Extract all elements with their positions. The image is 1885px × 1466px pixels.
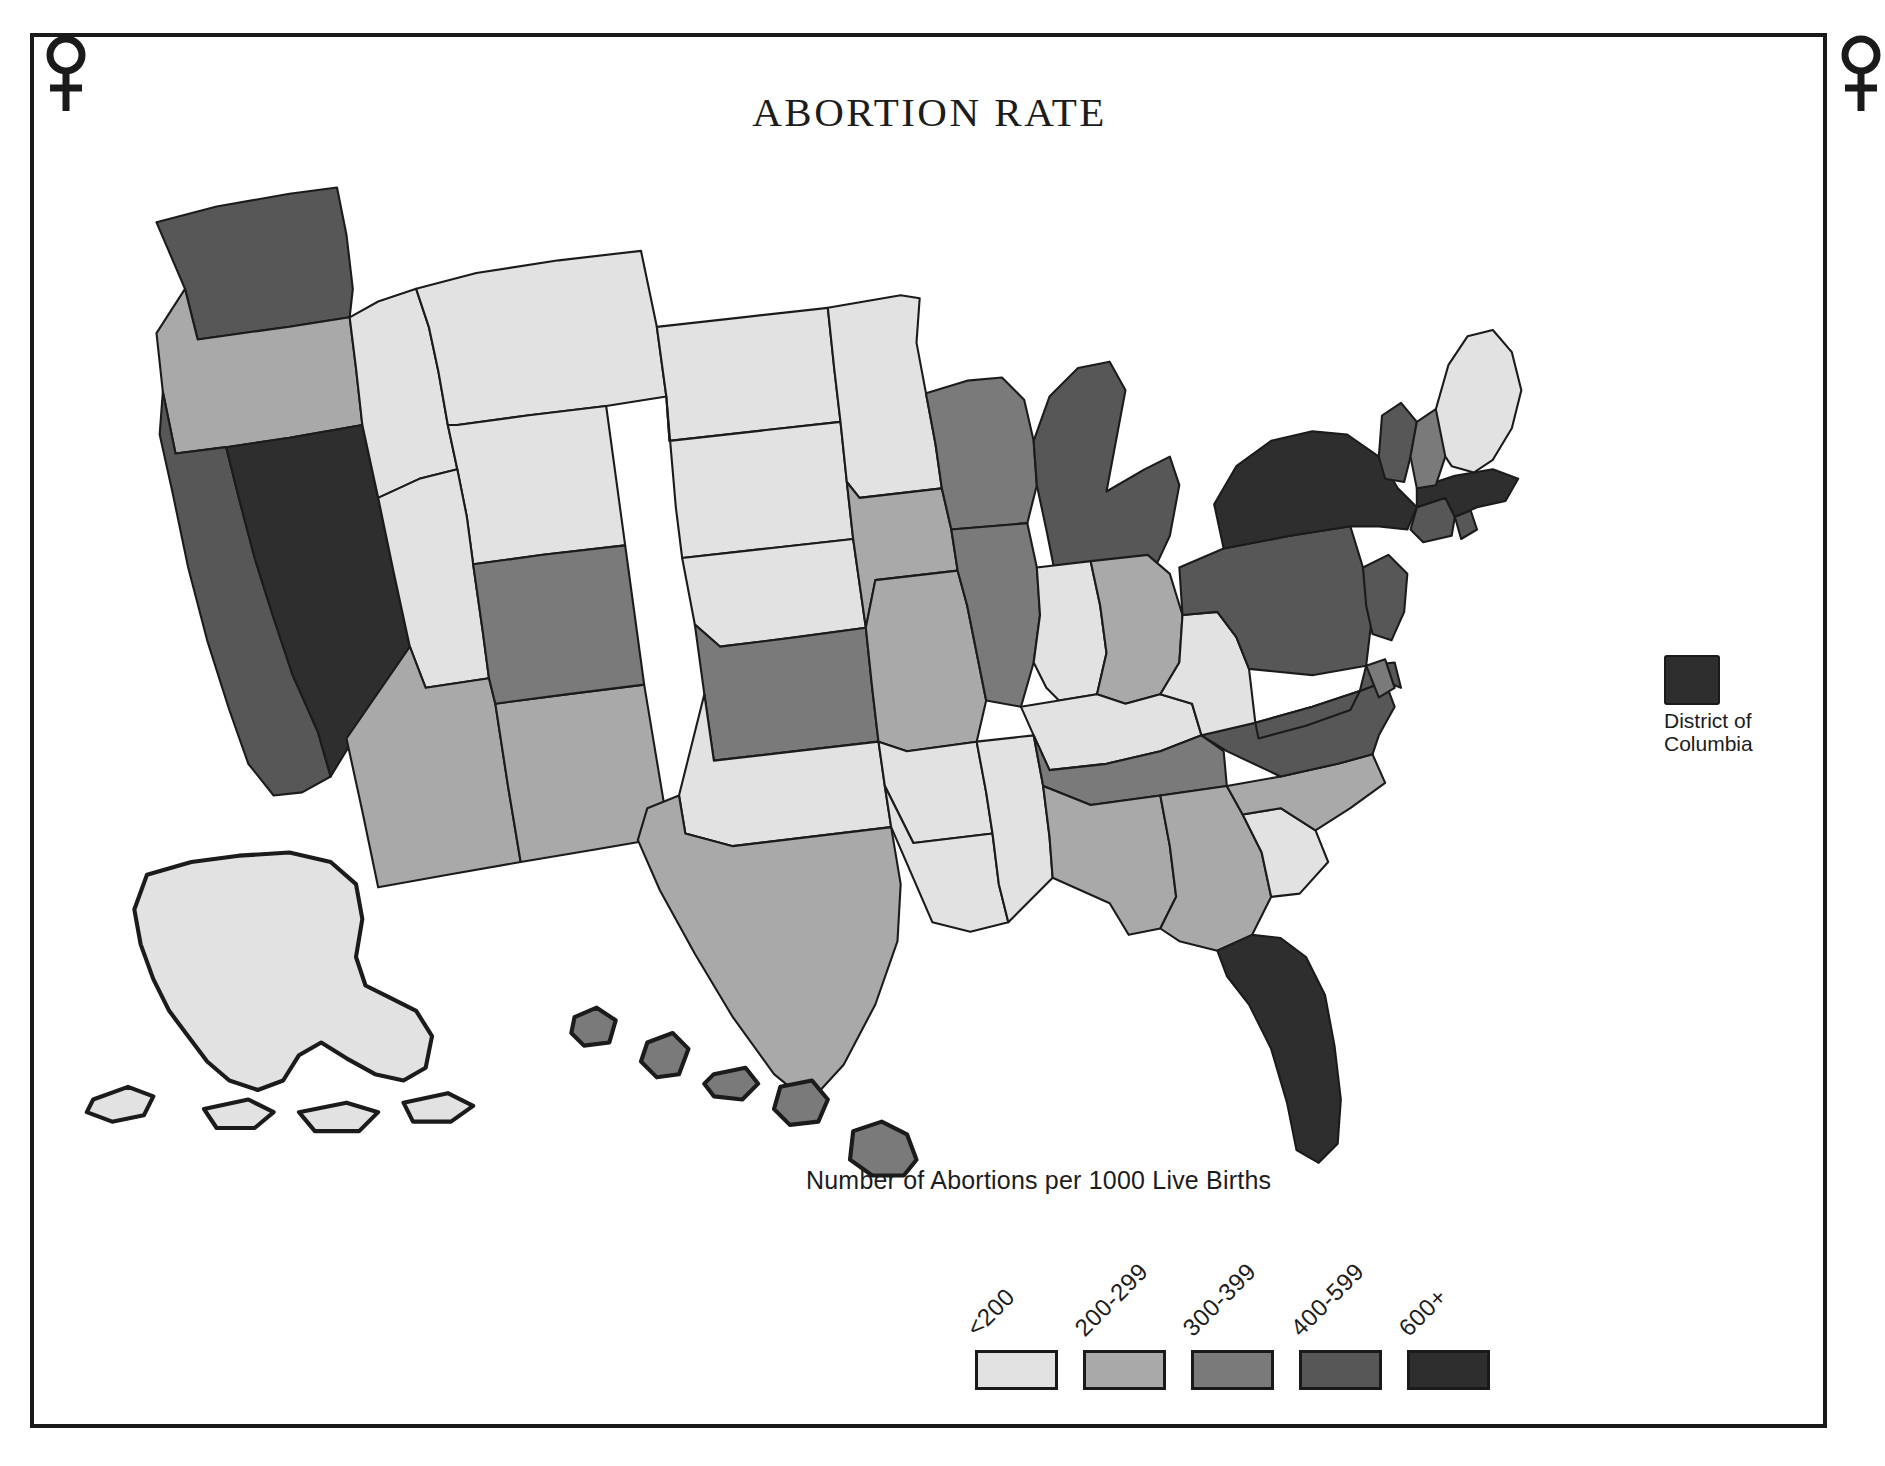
legend-item: <200 — [975, 1350, 1058, 1390]
dc-label-line2: Columbia — [1664, 733, 1834, 756]
legend-swatch — [1191, 1350, 1274, 1390]
state-mn: Minnesota — [828, 295, 942, 498]
state-vt: Vermont — [1379, 403, 1417, 482]
map-subtitle: Number of Abortions per 1000 Live Births — [806, 1166, 1271, 1195]
legend-item: 400-599 — [1299, 1350, 1382, 1390]
legend-swatch — [975, 1350, 1058, 1390]
legend-item: 300-399 — [1191, 1350, 1274, 1390]
state-ak: Alaska — [87, 853, 473, 1132]
state-fl: Florida — [1217, 935, 1341, 1163]
dc-color-swatch — [1664, 655, 1720, 705]
state-me: Maine — [1436, 330, 1522, 473]
venus-symbol-icon-left — [34, 33, 98, 111]
venus-symbol-icon-right — [1829, 33, 1885, 111]
legend-swatch — [1083, 1350, 1166, 1390]
dc-label-line1: District of — [1664, 710, 1834, 733]
dc-label: District of Columbia — [1664, 710, 1834, 755]
state-wy: Wyoming — [448, 406, 625, 564]
state-nd: North Dakota — [657, 308, 841, 441]
legend-swatch — [1299, 1350, 1382, 1390]
state-al: Alabama — [1043, 786, 1176, 935]
district-of-columbia-callout: District of Columbia — [1664, 655, 1834, 755]
legend-item: 200-299 — [1083, 1350, 1166, 1390]
us-choropleth-map: WashingtonOregonCaliforniaNevadaIdahoMon… — [52, 118, 1572, 1188]
legend-item: 600+ — [1407, 1350, 1490, 1390]
state-co: Colorado — [473, 545, 644, 703]
map-legend: <200200-299300-399400-599600+ — [975, 1350, 1490, 1390]
states-layer: WashingtonOregonCaliforniaNevadaIdahoMon… — [87, 188, 1522, 1176]
legend-swatch — [1407, 1350, 1490, 1390]
state-mt: Montana — [416, 251, 666, 425]
